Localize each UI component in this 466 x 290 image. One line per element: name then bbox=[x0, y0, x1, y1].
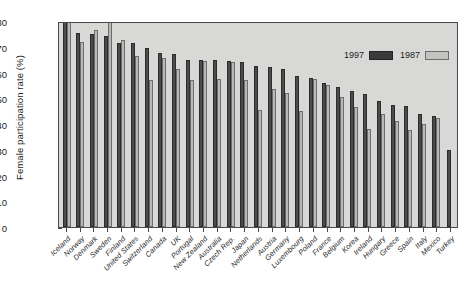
bar-1987 bbox=[367, 129, 371, 227]
bar-1987 bbox=[176, 69, 180, 227]
bar-group bbox=[142, 23, 156, 227]
x-axis-label-slot: Denmark bbox=[86, 232, 100, 288]
x-axis-label-slot: Greece bbox=[388, 232, 402, 288]
bar-group bbox=[183, 23, 197, 227]
bar-1987 bbox=[326, 85, 330, 227]
bar-1987 bbox=[94, 30, 98, 227]
bar-1987 bbox=[258, 110, 262, 227]
bar-group bbox=[238, 23, 252, 227]
x-axis-label-slot: Mexico bbox=[429, 232, 443, 288]
bar-group bbox=[279, 23, 293, 227]
bar-1987 bbox=[135, 56, 139, 227]
bar-group bbox=[224, 23, 238, 227]
bar-1987 bbox=[354, 107, 358, 227]
bar-1987 bbox=[108, 23, 112, 227]
bar-group bbox=[169, 23, 183, 227]
bar-1987 bbox=[395, 121, 399, 227]
bar-group bbox=[87, 23, 101, 227]
bar-1987 bbox=[340, 97, 344, 227]
plot-area: 1997 1987 bbox=[58, 22, 458, 228]
y-axis-tick-label: 20 bbox=[0, 171, 7, 182]
y-axis-tick-label: 10 bbox=[0, 197, 7, 208]
x-axis-label-slot: Netherlands bbox=[251, 232, 265, 288]
bar-group bbox=[74, 23, 88, 227]
x-axis-label-slot: Switzerland bbox=[141, 232, 155, 288]
bar-group bbox=[319, 23, 333, 227]
legend-item-1987: 1987 bbox=[400, 50, 449, 60]
x-axis-label-slot: Canada bbox=[155, 232, 169, 288]
bar-group bbox=[60, 23, 74, 227]
legend-swatch-1987 bbox=[425, 51, 449, 60]
bar-1987 bbox=[436, 118, 440, 227]
bar-1987 bbox=[231, 62, 235, 227]
y-axis-tick-label: 30 bbox=[0, 145, 7, 156]
bar-1987 bbox=[217, 79, 221, 227]
y-axis-tick-label: 60 bbox=[0, 68, 7, 79]
bar-1987 bbox=[190, 80, 194, 227]
y-axis-tick-label: 0 bbox=[0, 223, 7, 234]
x-axis-label-slot: Turkey bbox=[443, 232, 457, 288]
x-axis-label-slot: Spain bbox=[402, 232, 416, 288]
bar-group bbox=[292, 23, 306, 227]
bar-group bbox=[306, 23, 320, 227]
x-axis-label-slot: Belgium bbox=[333, 232, 347, 288]
bar-group bbox=[251, 23, 265, 227]
x-axis-label-slot: Iceland bbox=[59, 232, 73, 288]
legend-item-1997: 1997 bbox=[344, 50, 393, 60]
chart-legend: 1997 1987 bbox=[344, 50, 449, 60]
x-axis-label-slot: Hungary bbox=[375, 232, 389, 288]
bar-group bbox=[101, 23, 115, 227]
y-axis-tick-label: 50 bbox=[0, 94, 7, 105]
bar-1987 bbox=[203, 61, 207, 227]
x-axis-label-slot: Korea bbox=[347, 232, 361, 288]
bar-group bbox=[197, 23, 211, 227]
legend-label-1997: 1997 bbox=[344, 50, 364, 60]
bar-group bbox=[210, 23, 224, 227]
x-axis-labels: IcelandNorwayDenmarkSwedenFinlandUnited … bbox=[58, 232, 458, 288]
bar-group bbox=[156, 23, 170, 227]
legend-label-1987: 1987 bbox=[400, 50, 420, 60]
bar-1987 bbox=[244, 80, 248, 227]
y-axis-tick-label: 70 bbox=[0, 42, 7, 53]
bar-1997 bbox=[447, 150, 451, 227]
bar-1987 bbox=[67, 23, 71, 227]
bar-group bbox=[128, 23, 142, 227]
bar-1987 bbox=[149, 80, 153, 227]
bar-group bbox=[115, 23, 129, 227]
y-axis-tick-label: 40 bbox=[0, 120, 7, 131]
y-axis-title: Female participation rate (%) bbox=[14, 13, 25, 223]
y-axis-tick-label: 80 bbox=[0, 17, 7, 28]
x-axis-label-slot: Poland bbox=[306, 232, 320, 288]
bar-1987 bbox=[272, 89, 276, 227]
bar-chart: Female participation rate (%) 8070605040… bbox=[0, 0, 466, 290]
bar-group bbox=[265, 23, 279, 227]
legend-swatch-1997 bbox=[369, 51, 393, 60]
bar-1987 bbox=[121, 40, 125, 227]
bar-1987 bbox=[313, 79, 317, 227]
bar-1987 bbox=[408, 130, 412, 227]
bar-1987 bbox=[285, 93, 289, 227]
x-axis-label-slot: Luxembourg bbox=[292, 232, 306, 288]
bar-1987 bbox=[299, 111, 303, 227]
bar-1987 bbox=[162, 58, 166, 227]
bar-1987 bbox=[381, 114, 385, 227]
bar-1987 bbox=[80, 42, 84, 227]
x-axis-label-slot: Italy bbox=[416, 232, 430, 288]
bar-1987 bbox=[422, 124, 426, 227]
